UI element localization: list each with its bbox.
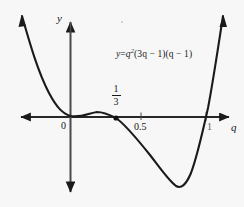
- x-axis-label: q: [231, 122, 237, 133]
- curve-right-arrowhead: [220, 15, 228, 27]
- equation-annotation: y=q2(3q − 1)(q − 1): [116, 49, 192, 59]
- tick-label-half: 0.5: [134, 122, 147, 132]
- tick-label-one-third: 1 3: [108, 84, 124, 108]
- equation-factor-two: (q − 1): [166, 49, 193, 59]
- tick-label-one: 1: [207, 122, 212, 132]
- y-axis-label: y: [57, 13, 62, 24]
- one-third-numerator: 1: [108, 84, 124, 95]
- function-graph-figure: y q 0 1 3 0.5 1 y=q2(3q − 1)(q − 1): [0, 0, 244, 207]
- equation-factor-one: (3q − 1): [134, 49, 166, 59]
- one-third-denominator: 3: [108, 97, 124, 108]
- origin-label: 0: [61, 121, 66, 131]
- root-marker-one-third: [113, 115, 118, 120]
- scan-speck: [121, 21, 123, 23]
